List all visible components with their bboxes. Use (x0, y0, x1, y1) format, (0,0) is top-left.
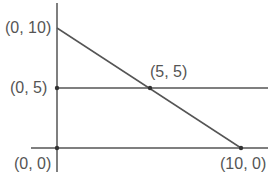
label-10-0: (10, 0) (220, 156, 266, 172)
point-10-0 (239, 146, 243, 150)
label-0-0: (0, 0) (14, 156, 51, 172)
point-0-5 (55, 86, 59, 90)
point-5-5 (148, 86, 152, 90)
label-5-5: (5, 5) (150, 64, 187, 80)
label-0-10: (0, 10) (5, 20, 51, 36)
label-0-5: (0, 5) (10, 80, 47, 96)
point-0-0 (55, 146, 59, 150)
